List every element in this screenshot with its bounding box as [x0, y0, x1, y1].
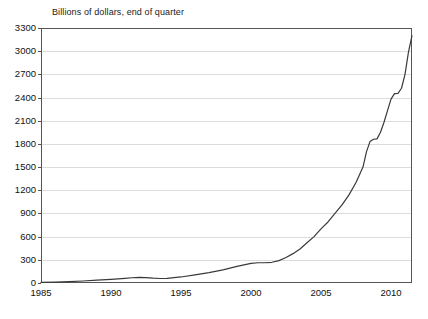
chart-container: Billions of dollars, end of quarter 3300… [0, 0, 428, 319]
gridlines [42, 52, 412, 261]
plot-area-border [42, 29, 412, 283]
data-series-line [41, 36, 412, 283]
line-chart-plot [0, 0, 428, 319]
y-axis-tick-marks [38, 29, 41, 284]
